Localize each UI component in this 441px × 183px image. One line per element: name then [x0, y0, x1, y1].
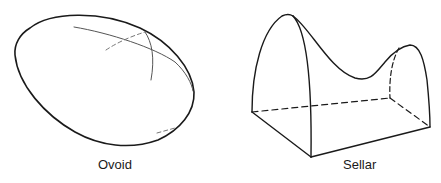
- sellar-saddle-ridge: [293, 16, 430, 127]
- ovoid-shape: [15, 15, 194, 145]
- ovoid-outline: [15, 15, 194, 145]
- ovoid-hidden-arc: [106, 32, 145, 50]
- sellar-base-front-left: [252, 112, 311, 157]
- ovoid-meridian-curve: [74, 27, 193, 91]
- ovoid-label: Ovoid: [98, 157, 132, 172]
- sellar-base-hidden-back: [252, 98, 390, 112]
- diagram-canvas: [0, 0, 441, 183]
- sellar-left-arch-front: [293, 16, 311, 157]
- sellar-base-front-right: [311, 127, 430, 157]
- ovoid-cross-arc: [145, 32, 153, 80]
- sellar-base-hidden-right: [390, 98, 430, 127]
- sellar-left-arch-back: [252, 15, 293, 113]
- sellar-shape: [252, 15, 430, 158]
- sellar-label: Sellar: [343, 157, 376, 172]
